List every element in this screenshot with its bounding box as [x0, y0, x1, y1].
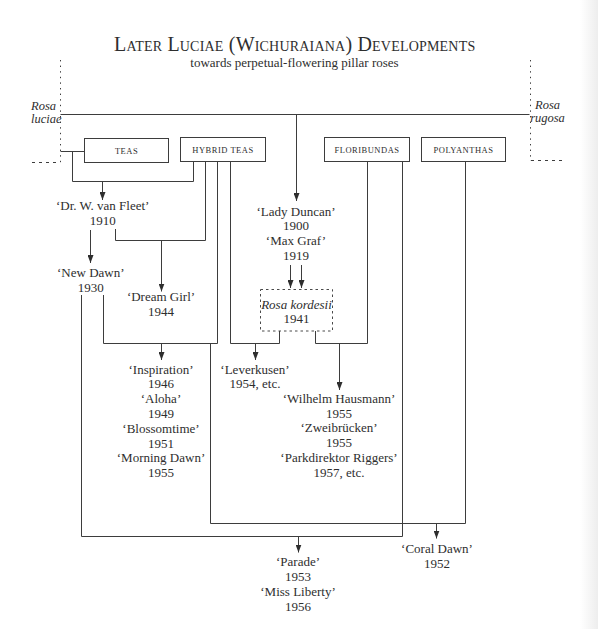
node-leverkusen: ‘Leverkusen’ 1954, etc.	[220, 363, 289, 393]
cultivar-name: ‘Inspiration’	[117, 363, 205, 378]
cultivar-year: 1919	[256, 249, 335, 264]
species-genus: Rosa	[31, 100, 62, 113]
node-coral-dawn: ‘Coral Dawn’ 1952	[401, 542, 473, 572]
cultivar-name: ‘Morning Dawn’	[117, 451, 205, 466]
cultivar-year: 1957, etc.	[280, 466, 397, 481]
node-inspiration-group: ‘Inspiration’ 1946 ‘Aloha’ 1949 ‘Blossom…	[117, 363, 205, 481]
diagram-title: Later Luciae (Wichuraiana) Developments	[114, 34, 475, 54]
cultivar-year: 1955	[280, 436, 397, 451]
node-wilhelm-group: ‘Wilhelm Hausmann’ 1955 ‘Zweibrücken’ 19…	[280, 392, 397, 481]
group-box-teas: TEAS	[84, 138, 169, 163]
node-lady-duncan-max-graf: ‘Lady Duncan’ 1900 ‘Max Graf’ 1919	[256, 205, 335, 263]
species-rosa-luciae: Rosa luciae	[31, 100, 62, 127]
cultivar-name: ‘Dream Girl’	[127, 290, 195, 305]
cultivar-year: 1956	[260, 600, 335, 615]
cultivar-name: ‘Max Graf’	[256, 234, 335, 249]
group-box-floribundas: FLORIBUNDAS	[324, 137, 410, 162]
group-box-hybrid-teas: HYBRID TEAS	[180, 137, 266, 162]
cultivar-name: ‘Zweibrücken’	[280, 421, 397, 436]
node-rosa-kordesii: Rosa kordesii 1941	[261, 298, 332, 327]
species-name: Rosa kordesii	[261, 298, 332, 312]
cultivar-year: 1941	[261, 312, 332, 326]
cultivar-name: ‘New Dawn’	[57, 266, 125, 281]
cultivar-name: ‘Miss Liberty’	[260, 585, 335, 600]
cultivar-name: ‘Coral Dawn’	[401, 542, 473, 557]
cultivar-name: ‘Aloha’	[117, 392, 205, 407]
group-label: HYBRID TEAS	[192, 145, 253, 155]
cultivar-year: 1952	[401, 557, 473, 572]
node-new-dawn: ‘New Dawn’ 1930	[57, 266, 125, 296]
node-parade-group: ‘Parade’ 1953 ‘Miss Liberty’ 1956	[260, 555, 335, 614]
diagram-page: Later Luciae (Wichuraiana) Developments …	[0, 0, 598, 629]
cultivar-name: ‘Parkdirektor Riggers’	[280, 451, 397, 466]
node-dr-van-fleet: ‘Dr. W. van Fleet’ 1910	[56, 199, 150, 229]
cultivar-name: ‘Blossomtime’	[117, 422, 205, 437]
cultivar-name: ‘Wilhelm Hausmann’	[280, 392, 397, 407]
species-epithet: rugosa	[530, 112, 565, 125]
cultivar-year: 1910	[56, 214, 150, 229]
cultivar-name: ‘Leverkusen’	[220, 363, 289, 378]
cultivar-year: 1951	[117, 437, 205, 452]
cultivar-year: 1953	[260, 570, 335, 585]
node-dream-girl: ‘Dream Girl’ 1944	[127, 290, 195, 320]
cultivar-year: 1900	[256, 219, 335, 234]
cultivar-year: 1955	[280, 407, 397, 422]
cultivar-year: 1955	[117, 466, 205, 481]
cultivar-name: ‘Lady Duncan’	[256, 205, 335, 220]
cultivar-year: 1946	[117, 377, 205, 392]
cultivar-year: 1944	[127, 305, 195, 320]
cultivar-year: 1949	[117, 407, 205, 422]
diagram-subtitle: towards perpetual-flowering pillar roses	[190, 56, 398, 69]
group-label: POLYANTHAS	[434, 145, 494, 155]
species-rosa-rugosa: Rosa rugosa	[530, 99, 565, 126]
cultivar-year: 1930	[57, 281, 125, 296]
species-epithet: luciae	[31, 113, 62, 126]
cultivar-name: ‘Dr. W. van Fleet’	[56, 199, 150, 214]
species-genus: Rosa	[530, 99, 565, 112]
cultivar-year: 1954, etc.	[220, 377, 289, 392]
group-box-polyanthas: POLYANTHAS	[421, 137, 506, 162]
group-label: FLORIBUNDAS	[334, 145, 399, 155]
group-label: TEAS	[115, 146, 138, 156]
cultivar-name: ‘Parade’	[260, 555, 335, 570]
